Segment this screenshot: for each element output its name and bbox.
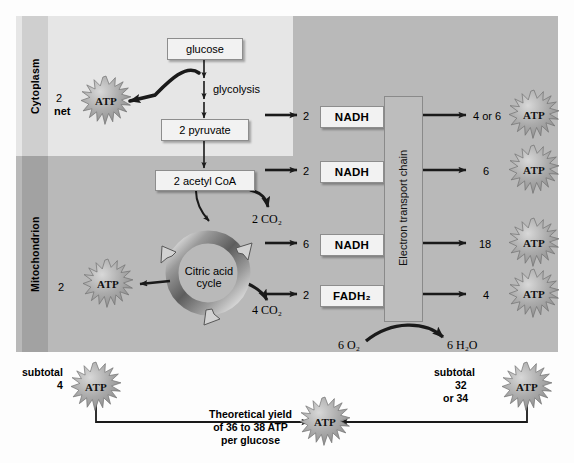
- citric-line-1: Citric acid: [185, 265, 233, 277]
- atp-burst-subtotal-left: ATP: [70, 361, 122, 413]
- atp-burst-glycolysis: ATP: [80, 75, 132, 127]
- subtotal-left-label: subtotal: [22, 366, 63, 378]
- atp-label: ATP: [299, 396, 351, 448]
- subtotal-right-value: 32: [455, 379, 467, 391]
- pyruvate-box: 2 pyruvate: [161, 119, 249, 141]
- subtotal-left-value: 4: [57, 379, 63, 391]
- atp-label: ATP: [70, 361, 122, 413]
- atp-yield-3: 18: [479, 238, 491, 250]
- atp-burst-row-2: ATP: [508, 144, 560, 196]
- theoretical-yield-label: Theoretical yield of 36 to 38 ATP per gl…: [188, 408, 313, 447]
- nadh-count-3: 6: [303, 238, 309, 250]
- atp-label: ATP: [508, 144, 560, 196]
- subtotal-right-value-alt: or 34: [443, 392, 468, 404]
- atp-label: ATP: [508, 89, 560, 141]
- atp-burst-cycle: ATP: [82, 258, 134, 310]
- atp-label: ATP: [508, 217, 560, 269]
- atp-yield-1: 4 or 6: [473, 110, 501, 122]
- atp-burst-row-3: ATP: [508, 217, 560, 269]
- atp-burst-total: ATP: [299, 396, 351, 448]
- acetyl-coa-box: 2 acetyl CoA: [155, 170, 255, 191]
- citric-acid-cycle-label: Citric acid cycle: [181, 265, 237, 289]
- atp-burst-subtotal-right: ATP: [501, 361, 553, 413]
- atp-label: ATP: [80, 75, 132, 127]
- co2-from-acetyl-label: 2 CO₂: [252, 212, 282, 227]
- subtotal-right-label: subtotal: [434, 366, 475, 378]
- water-label: 6 H₂O: [447, 338, 478, 353]
- nadh-box-3: NADH: [320, 234, 384, 256]
- yield-line-1: Theoretical yield: [209, 408, 292, 420]
- electron-transport-chain-label: Electron transport chain: [384, 96, 421, 320]
- fadh2-box: FADH₂: [320, 285, 384, 307]
- atp-label: ATP: [82, 258, 134, 310]
- diagram-canvas: Cytoplasm Mitochondrion: [0, 0, 574, 463]
- nadh-count-1: 2: [303, 110, 309, 122]
- atp-burst-row-4: ATP: [508, 268, 560, 320]
- atp-yield-4: 4: [483, 289, 489, 301]
- atp-label: ATP: [508, 268, 560, 320]
- cycle-atp-count: 2: [58, 281, 64, 293]
- nadh-count-2: 2: [303, 165, 309, 177]
- atp-burst-row-1: ATP: [508, 89, 560, 141]
- yield-line-2: of 36 to 38 ATP: [213, 421, 288, 433]
- nadh-box-1: NADH: [320, 106, 384, 128]
- oxygen-label: 6 O₂: [338, 338, 360, 353]
- fadh2-count: 2: [303, 289, 309, 301]
- yield-line-3: per glucose: [221, 434, 280, 446]
- glycolysis-label: glycolysis: [213, 83, 260, 95]
- atp-label: ATP: [501, 361, 553, 413]
- nadh-box-2: NADH: [320, 161, 384, 183]
- glycolysis-atp-net-label: net: [54, 105, 71, 117]
- glycolysis-atp-count: 2: [56, 92, 62, 104]
- co2-from-cycle-label: 4 CO₂: [252, 303, 282, 318]
- citric-line-2: cycle: [196, 277, 221, 289]
- atp-yield-2: 6: [483, 165, 489, 177]
- glucose-box: glucose: [167, 38, 243, 60]
